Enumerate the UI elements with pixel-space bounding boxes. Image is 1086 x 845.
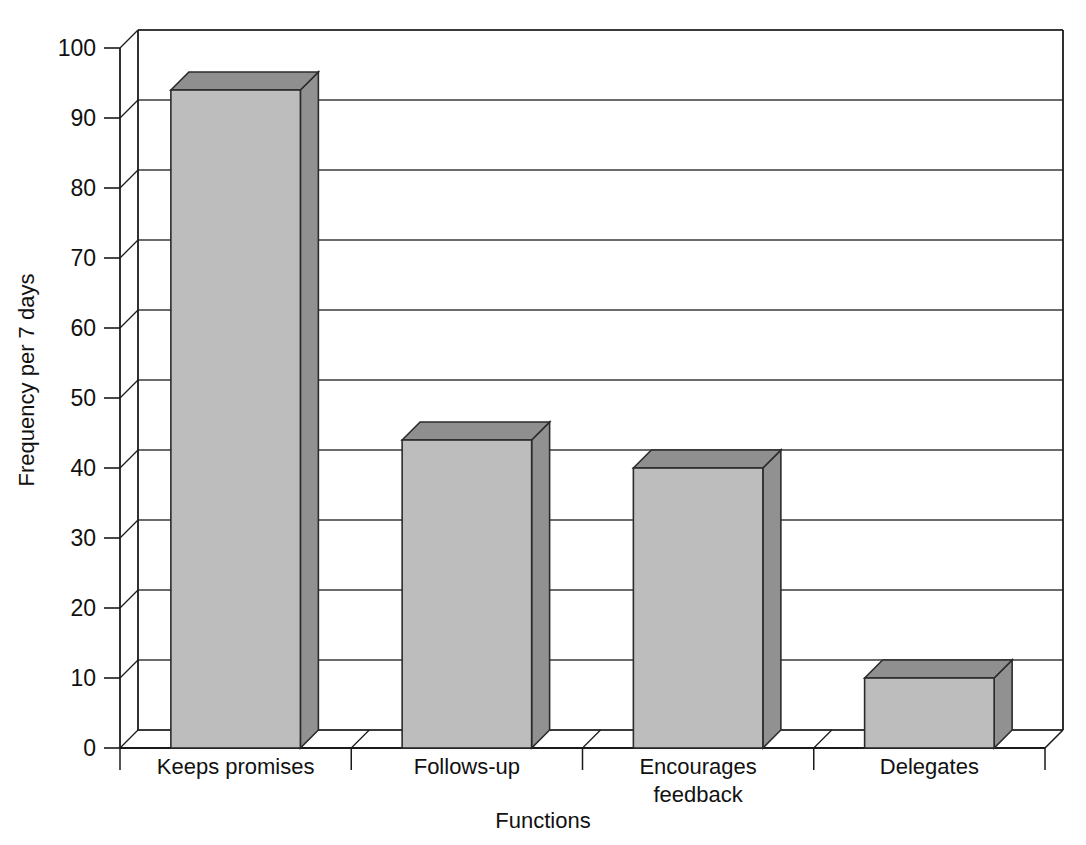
- floor-depth-connector: [351, 730, 369, 748]
- y-tick-label: 80: [70, 175, 96, 201]
- bar-top-face: [402, 422, 550, 440]
- category-label: Delegates: [880, 754, 979, 779]
- y-axis-depth-connector: [120, 170, 138, 188]
- y-tick-label: 100: [58, 35, 96, 61]
- category-labels-group: Keeps promisesFollows-upEncouragesfeedba…: [157, 754, 979, 807]
- y-tick-label: 40: [70, 455, 96, 481]
- bar-top-face: [865, 660, 1013, 678]
- y-tick-label: 70: [70, 245, 96, 271]
- bar-front-face: [865, 678, 995, 748]
- y-tick-label: 30: [70, 525, 96, 551]
- category-label: Keeps promises: [157, 754, 315, 779]
- y-tick-label: 90: [70, 105, 96, 131]
- bar-chart-figure: 0102030405060708090100 Keeps promisesFol…: [0, 0, 1086, 845]
- y-axis-depth-connector: [120, 450, 138, 468]
- bar-front-face: [171, 90, 301, 748]
- bar-front-face: [402, 440, 532, 748]
- y-axis-depth-connector: [120, 380, 138, 398]
- y-axis-depth-connector: [120, 520, 138, 538]
- y-axis-depth-connector: [120, 660, 138, 678]
- bar-top-face: [171, 72, 319, 90]
- y-tick-label: 50: [70, 385, 96, 411]
- x-axis-title: Functions: [495, 808, 590, 833]
- bar-column: [171, 72, 319, 748]
- bar-column: [402, 422, 550, 748]
- chart-canvas: 0102030405060708090100 Keeps promisesFol…: [0, 0, 1086, 845]
- bar-side-face: [532, 422, 550, 748]
- y-tick-labels-group: 0102030405060708090100: [58, 35, 96, 761]
- y-tick-label: 0: [83, 735, 96, 761]
- y-axis-depth-connector: [120, 100, 138, 118]
- bar-column: [633, 450, 781, 748]
- y-axis-title: Frequency per 7 days: [14, 274, 39, 487]
- category-label: Encouragesfeedback: [639, 754, 756, 807]
- y-axis-depth-connector: [120, 240, 138, 258]
- y-tick-label: 20: [70, 595, 96, 621]
- bar-column: [865, 660, 1013, 748]
- y-tick-label: 60: [70, 315, 96, 341]
- y-axis-depth-connector: [120, 730, 138, 748]
- bar-side-face: [300, 72, 318, 748]
- y-axis-group: [104, 30, 138, 748]
- floor-right-edge: [1045, 730, 1063, 748]
- y-axis-depth-connector: [120, 30, 138, 48]
- floor-depth-connector: [583, 730, 601, 748]
- bars-group: [171, 72, 1012, 748]
- category-label: Follows-up: [414, 754, 520, 779]
- y-axis-depth-connector: [120, 310, 138, 328]
- bar-front-face: [633, 468, 763, 748]
- floor-depth-connector: [814, 730, 832, 748]
- bar-side-face: [763, 450, 781, 748]
- y-axis-depth-connector: [120, 590, 138, 608]
- bar-top-face: [633, 450, 781, 468]
- y-tick-label: 10: [70, 665, 96, 691]
